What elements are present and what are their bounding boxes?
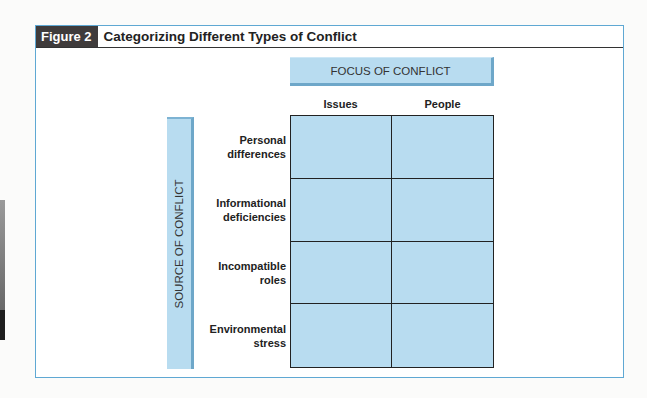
cell-environmental-issues	[291, 304, 392, 367]
column-header-issues: Issues	[290, 98, 391, 110]
column-header-people: People	[392, 98, 493, 110]
figure-header: Figure 2 Categorizing Different Types of…	[36, 26, 623, 48]
cell-incompatible-people	[392, 242, 493, 305]
source-label-text: SOURCE OF CONFLICT	[173, 179, 185, 308]
focus-label-text: FOCUS OF CONFLICT	[330, 65, 450, 77]
conflict-matrix	[290, 115, 494, 368]
cell-informational-issues	[291, 179, 392, 242]
source-of-conflict-label: SOURCE OF CONFLICT	[167, 117, 194, 369]
cell-personal-issues	[291, 116, 392, 179]
row-label-personal-differences: Personaldifferences	[196, 133, 286, 161]
page-edge-strip	[0, 200, 5, 340]
row-label-incompatible-roles: Incompatibleroles	[196, 259, 286, 287]
row-label-informational-deficiencies: Informationaldeficiencies	[196, 196, 286, 224]
figure-badge: Figure 2	[36, 26, 98, 47]
cell-informational-people	[392, 179, 493, 242]
cell-environmental-people	[392, 304, 493, 367]
cell-personal-people	[392, 116, 493, 179]
row-label-environmental-stress: Environmentalstress	[196, 322, 286, 350]
focus-of-conflict-label: FOCUS OF CONFLICT	[290, 57, 494, 86]
figure-title: Categorizing Different Types of Conflict	[98, 29, 357, 44]
figure-frame: Figure 2 Categorizing Different Types of…	[35, 25, 624, 378]
cell-incompatible-issues	[291, 242, 392, 305]
